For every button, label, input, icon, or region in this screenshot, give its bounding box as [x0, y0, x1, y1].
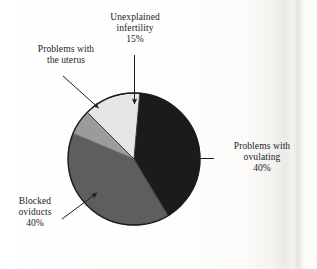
label-unexplained-infertility: Unexplained infertility 15% [96, 12, 174, 46]
label-unexplained-infertility-line1: Unexplained [96, 12, 174, 23]
label-problems-with-ovulating-line2: ovulating [216, 152, 308, 163]
label-problems-with-the-uterus-line2: the uterus [20, 55, 112, 66]
label-blocked-oviducts-line2: oviducts [6, 207, 64, 218]
label-blocked-oviducts-value: 40% [6, 218, 64, 229]
label-problems-with-ovulating-line1: Problems with [216, 141, 308, 152]
label-blocked-oviducts-line1: Blocked [6, 196, 64, 207]
leader-arrow-problems-with-the-uterus [63, 76, 99, 108]
label-problems-with-ovulating: Problems with ovulating 40% [216, 141, 308, 175]
label-unexplained-infertility-line2: infertility [96, 23, 174, 34]
label-problems-with-ovulating-value: 40% [216, 163, 308, 174]
pie-chart-figure: Unexplained infertility 15% Problems wit… [0, 0, 317, 269]
label-problems-with-the-uterus: Problems with the uterus [20, 44, 112, 66]
label-problems-with-the-uterus-line1: Problems with [20, 44, 112, 55]
label-blocked-oviducts: Blocked oviducts 40% [6, 196, 64, 230]
